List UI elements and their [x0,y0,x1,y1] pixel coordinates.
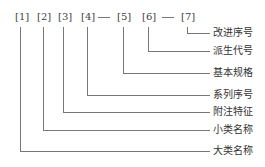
connector-3-vertical [63,27,64,113]
connector-2-vertical [43,27,44,131]
code-6: [6] [142,11,156,23]
code-1: [1] [15,11,29,23]
code-4: [4] [81,11,95,23]
label-basic-spec: 基本规格 [213,67,253,79]
connector-5-vertical [123,27,124,74]
connector-2-horizontal [43,130,210,131]
connector-4-horizontal [87,95,210,96]
code-2: [2] [37,11,51,23]
label-subclass-name: 小类名称 [213,124,253,136]
label-derivative-code: 派生代号 [213,45,253,57]
separator-dash-1 [98,17,110,18]
separator-dash-2 [162,17,174,18]
label-class-name: 大类名称 [213,145,253,157]
connector-3-horizontal [63,112,210,113]
connector-4-vertical [87,27,88,96]
label-series-serial: 系列序号 [213,89,253,101]
connector-6-horizontal [148,51,210,52]
connector-5-horizontal [123,73,210,74]
label-note-feature: 附注特征 [213,106,253,118]
connector-7-horizontal [187,33,210,34]
connector-6-vertical [148,27,149,52]
connector-1-vertical [20,27,21,152]
connector-1-horizontal [20,151,210,152]
label-improvement-serial: 改进序号 [213,27,253,39]
code-7: [7] [181,11,195,23]
code-3: [3] [58,11,72,23]
code-5: [5] [117,11,131,23]
